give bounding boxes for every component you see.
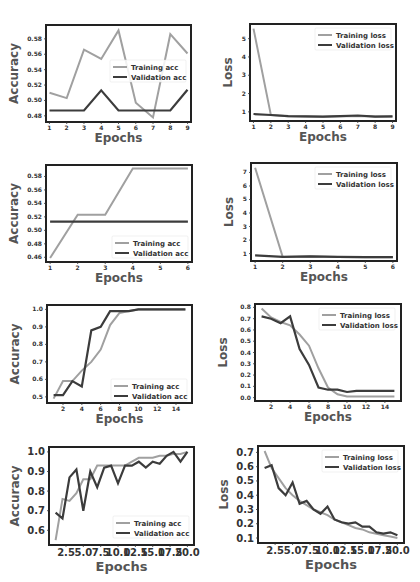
x-tick-label: 6: [99, 405, 103, 412]
y-tick-label: 0.3: [236, 504, 254, 515]
x-tick-label: 6: [307, 403, 311, 410]
x-tick-label: 3: [286, 123, 290, 130]
y-tick-label: 0.54: [27, 66, 42, 73]
y-tick-label: 0.6: [32, 375, 43, 382]
x-tick-label: 9: [390, 123, 394, 130]
y-tick-label: 0.2: [240, 371, 251, 378]
x-tick-label: 4: [336, 263, 340, 270]
legend-label-training: Training loss: [336, 32, 386, 40]
y-tick-label: 5: [242, 35, 246, 42]
legend-label-training: Training acc: [132, 383, 179, 391]
x-tick-label: 20.0: [175, 547, 200, 558]
y-tick-label: 0.52: [27, 213, 42, 220]
y-tick-label: 1: [243, 250, 247, 257]
chart-loss-2: 1234561234567EpochsLossTraining lossVali…: [222, 163, 397, 284]
y-tick-label: 5: [243, 195, 247, 202]
y-tick-label: 0.6: [240, 326, 251, 333]
y-tick-label: 0.46: [27, 253, 42, 260]
x-axis-label: Epochs: [96, 412, 144, 426]
x-tick-label: 6: [134, 124, 138, 131]
x-tick-label: 2: [269, 123, 273, 130]
x-axis-label: Epochs: [299, 130, 347, 144]
y-tick-label: 1: [242, 108, 246, 115]
x-tick-label: 4: [80, 405, 84, 412]
x-tick-label: 2: [61, 405, 65, 412]
y-tick-label: 3: [242, 71, 246, 78]
x-tick-label: 5: [116, 124, 120, 131]
y-tick-label: 2: [243, 236, 247, 243]
y-tick-label: 4: [243, 209, 247, 216]
x-tick-label: 5: [321, 123, 325, 130]
y-tick-label: 0.5: [236, 475, 254, 486]
legend: Training lossValidation loss: [322, 450, 401, 472]
y-axis-label: Loss: [221, 57, 235, 87]
x-tick-label: 8: [373, 123, 377, 130]
x-tick-label: 2.5: [57, 547, 75, 558]
y-tick-label: 0.52: [27, 81, 42, 88]
y-tick-label: 0.4: [240, 349, 251, 356]
x-tick-label: 3: [82, 124, 86, 131]
legend: Training lossValidation loss: [315, 167, 394, 189]
y-axis-label: Accuracy: [7, 183, 21, 244]
x-tick-label: 3: [308, 263, 312, 270]
x-tick-label: 20.0: [385, 545, 410, 556]
x-axis-label: Epochs: [305, 557, 357, 572]
x-tick-label: 5.0: [284, 545, 302, 556]
y-tick-label: 0.7: [27, 505, 45, 516]
y-tick-label: 2: [242, 90, 246, 97]
x-tick-label: 12: [362, 403, 370, 410]
legend-label-training: Training loss: [343, 454, 393, 462]
y-tick-label: 0.7: [32, 358, 43, 365]
x-tick-label: 1: [48, 264, 52, 271]
legend: Training accValidation acc: [113, 516, 189, 538]
legend: Training accValidation acc: [111, 379, 187, 401]
y-axis-label: Accuracy: [8, 323, 22, 384]
x-tick-label: 10: [134, 405, 142, 412]
x-tick-label: 5: [158, 264, 162, 271]
y-tick-label: 1.0: [27, 446, 45, 457]
legend-label-validation: Validation loss: [343, 464, 401, 472]
y-tick-label: 0.56: [27, 50, 42, 57]
y-axis-label: Loss: [217, 479, 231, 509]
y-tick-label: 0.2: [236, 518, 254, 529]
legend-label-validation: Validation loss: [340, 322, 398, 330]
y-tick-label: 0.48: [27, 240, 42, 247]
y-tick-label: 0.7: [240, 315, 251, 322]
y-tick-label: 0.5: [240, 337, 251, 344]
chart-loss-3: 24681012140.00.10.20.30.40.50.60.70.8Epo…: [216, 303, 401, 424]
y-tick-label: 6: [243, 182, 247, 189]
x-tick-label: 4: [304, 123, 308, 130]
y-tick-label: 0.50: [27, 96, 42, 103]
y-axis-label: Loss: [222, 197, 236, 227]
y-axis-label: Accuracy: [8, 465, 22, 526]
x-tick-label: 10: [343, 403, 351, 410]
y-tick-label: 3: [243, 223, 247, 230]
x-tick-label: 6: [186, 264, 190, 271]
x-axis-label: Epochs: [304, 410, 352, 424]
legend-label-training: Training acc: [133, 240, 180, 248]
x-axis-label: Epochs: [95, 271, 143, 285]
legend-label-validation: Validation acc: [131, 74, 186, 82]
x-tick-label: 8: [168, 124, 172, 131]
x-tick-label: 4: [288, 403, 292, 410]
y-tick-label: 0.54: [27, 199, 42, 206]
x-tick-label: 5.0: [74, 547, 92, 558]
x-tick-label: 6: [338, 123, 342, 130]
x-tick-label: 4: [131, 264, 135, 271]
y-tick-label: 4: [242, 53, 246, 60]
y-tick-label: 0.3: [240, 360, 251, 367]
x-axis-label: Epochs: [300, 270, 348, 284]
y-tick-label: 0.58: [27, 172, 42, 179]
x-tick-label: 9: [185, 124, 189, 131]
y-tick-label: 0.1: [236, 533, 254, 544]
legend-label-training: Training acc: [134, 520, 181, 528]
x-tick-label: 5: [363, 263, 367, 270]
x-tick-label: 2.5: [266, 545, 284, 556]
legend-label-validation: Validation acc: [132, 393, 187, 401]
y-tick-label: 0.1: [240, 382, 251, 389]
x-tick-label: 2: [281, 263, 285, 270]
chart-acc-3: 24681012140.50.60.70.80.91.0EpochsAccura…: [8, 305, 192, 426]
training-curves-figure: 1234567890.480.500.520.540.560.58EpochsA…: [0, 0, 420, 582]
y-tick-label: 0.8: [27, 486, 45, 497]
chart-loss-4: 2.55.07.510.012.515.017.520.00.10.20.30.…: [217, 446, 410, 572]
